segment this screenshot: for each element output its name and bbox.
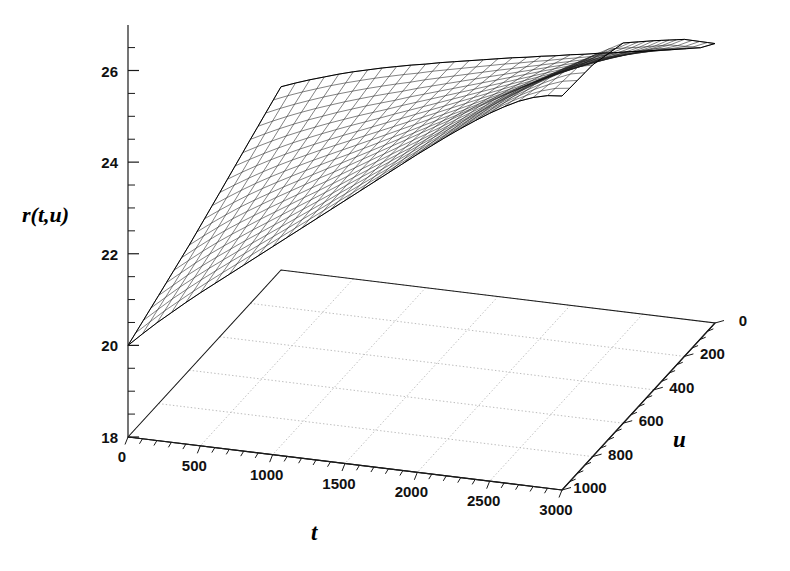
tick-label: 26	[101, 63, 118, 80]
tick-labels-layer: 1820222426050010001500200025003000020040…	[101, 63, 747, 519]
z-axis	[128, 25, 139, 437]
tick-label: 20	[101, 337, 118, 354]
tick-label: 1000	[250, 466, 283, 483]
tick-label: 600	[639, 412, 664, 429]
t-axis-label: t	[311, 520, 318, 545]
z-axis-label: r(t,u)	[22, 202, 69, 227]
tick-label: 24	[101, 154, 118, 171]
tick-label: 2500	[467, 492, 500, 509]
tick-label: 2000	[395, 483, 428, 500]
surface-boundary-edge	[128, 39, 715, 345]
tick-label: 400	[669, 379, 694, 396]
tick-label: 0	[118, 448, 126, 465]
tick-label: 3000	[539, 501, 572, 518]
tick-label: 1500	[322, 475, 355, 492]
tick-label: 800	[608, 446, 633, 463]
plot-canvas: 1820222426050010001500200025003000020040…	[0, 0, 790, 571]
surface-plot-figure: 1820222426050010001500200025003000020040…	[0, 0, 790, 571]
tick-label: 500	[182, 457, 207, 474]
tick-label: 1000	[573, 479, 606, 496]
tick-label: 22	[101, 246, 118, 263]
surface-wireframe-mesh	[128, 39, 715, 345]
tick-label: 200	[700, 345, 725, 362]
tick-label: 18	[101, 429, 118, 446]
tick-label: 0	[739, 312, 747, 329]
u-axis-label: u	[673, 427, 686, 452]
